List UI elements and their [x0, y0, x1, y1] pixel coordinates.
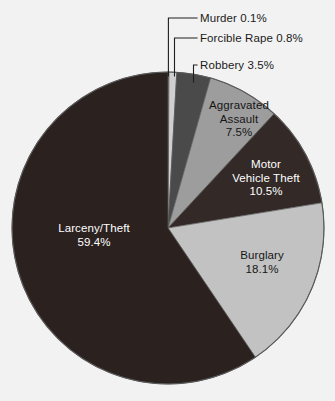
- slice-value-aggravated-assault: 7.5%: [196, 126, 282, 140]
- slice-label-larceny-theft-line1: Larceny/Theft: [38, 222, 150, 236]
- slice-label-motor-vehicle-theft-line1: Motor: [218, 158, 314, 172]
- slice-label-motor-vehicle-theft: Motor Vehicle Theft 10.5%: [218, 158, 314, 199]
- slice-label-robbery: Robbery 3.5%: [200, 59, 274, 71]
- leader-line-murder: [168, 18, 197, 76]
- slice-label-burglary: Burglary 18.1%: [222, 249, 302, 276]
- pie-chart: Murder 0.1% Forcible Rape 0.8% Robbery 3…: [0, 0, 335, 401]
- slice-value-larceny-theft: 59.4%: [38, 236, 150, 250]
- slice-label-burglary-line1: Burglary: [222, 249, 302, 263]
- slice-label-motor-vehicle-theft-line2: Vehicle Theft: [218, 172, 314, 186]
- slice-label-aggravated-assault-line2: Assault: [196, 113, 282, 127]
- slice-label-aggravated-assault-line1: Aggravated: [196, 99, 282, 113]
- slice-label-larceny-theft: Larceny/Theft 59.4%: [38, 222, 150, 249]
- slice-value-burglary: 18.1%: [222, 263, 302, 277]
- slice-label-murder: Murder 0.1%: [200, 12, 267, 24]
- pie-chart-canvas: [0, 0, 335, 401]
- slice-label-forcible-rape: Forcible Rape 0.8%: [200, 32, 303, 44]
- slice-value-motor-vehicle-theft: 10.5%: [218, 185, 314, 199]
- slice-label-aggravated-assault: Aggravated Assault 7.5%: [196, 99, 282, 140]
